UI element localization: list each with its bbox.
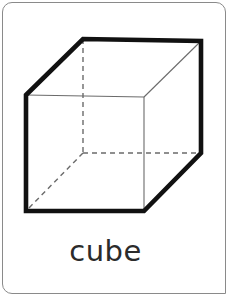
top-right-diagonal-edge [144, 41, 201, 97]
figure-area [3, 3, 218, 228]
bottom-left-diagonal-hidden-edge [26, 153, 83, 211]
cube-silhouette-outline [26, 39, 201, 211]
flashcard: cube [2, 2, 226, 294]
hidden-edges-group [26, 39, 201, 211]
front-top-edge [26, 95, 144, 97]
cube-diagram [3, 3, 218, 228]
figure-label-row: cube [3, 227, 208, 275]
figure-label: cube [69, 237, 142, 266]
